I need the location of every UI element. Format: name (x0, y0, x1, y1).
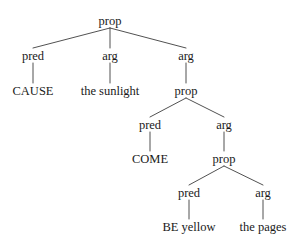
tree-diagram-canvas: proppredCAUSEargthe sunlightargproppredC… (0, 0, 301, 243)
tree-category-node: pred (139, 118, 162, 132)
tree-edge (189, 166, 224, 185)
tree-category-node: prop (175, 84, 198, 98)
tree-leaf-node: BE yellow (162, 220, 215, 234)
tree-edge (224, 166, 263, 185)
tree-category-node: prop (213, 152, 236, 166)
tree-category-node: prop (99, 14, 122, 28)
tree-node-layer: proppredCAUSEargthe sunlightargproppredC… (13, 14, 287, 234)
tree-category-node: pred (178, 186, 201, 200)
tree-category-node: arg (178, 49, 194, 63)
tree-edge (33, 28, 110, 48)
semantic-tree-figure: proppredCAUSEargthe sunlightargproppredC… (0, 0, 301, 243)
tree-leaf-node: CAUSE (13, 84, 54, 98)
tree-leaf-node: the sunlight (81, 84, 140, 98)
tree-leaf-node: the pages (240, 220, 287, 234)
tree-leaf-node: COME (132, 152, 168, 166)
tree-edge (110, 28, 186, 48)
tree-edge (150, 98, 186, 117)
tree-category-node: arg (255, 186, 271, 200)
tree-category-node: pred (22, 49, 45, 63)
tree-edge (186, 98, 224, 117)
tree-category-node: arg (102, 49, 118, 63)
tree-category-node: arg (216, 118, 232, 132)
